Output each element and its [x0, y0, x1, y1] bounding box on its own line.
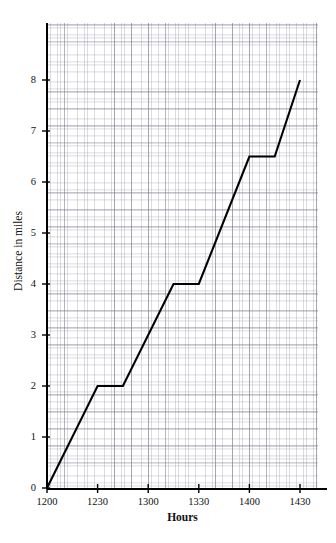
y-tick-label: 6 — [22, 177, 36, 188]
x-tick-label: 1300 — [138, 497, 159, 508]
y-tick-label: 7 — [22, 126, 36, 137]
plot-grid-area — [47, 23, 318, 489]
x-tick-label: 1430 — [290, 497, 311, 508]
x-tick-label: 1400 — [239, 497, 260, 508]
y-tick-label: 5 — [22, 228, 36, 239]
y-tick-label: 0 — [22, 483, 36, 494]
x-tick-label: 1200 — [37, 497, 58, 508]
distance-time-chart: 8 7 6 5 4 3 2 1 0 1200 1230 1300 1330 14… — [0, 0, 336, 543]
x-tick-label: 1230 — [87, 497, 108, 508]
x-axis-title: Hours — [47, 511, 318, 523]
y-tick-label: 3 — [22, 330, 36, 341]
y-tick-label: 1 — [22, 432, 36, 443]
x-tick-label: 1330 — [188, 497, 209, 508]
y-axis-title: Distance in miles — [12, 171, 24, 331]
y-tick-label: 2 — [22, 381, 36, 392]
y-tick-label: 8 — [22, 75, 36, 86]
y-tick-label: 4 — [22, 279, 36, 290]
